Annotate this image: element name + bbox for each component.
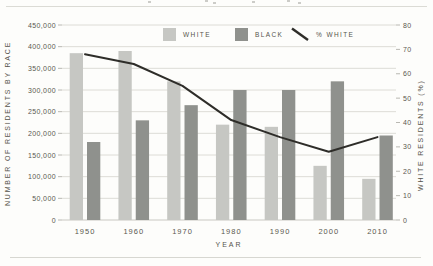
bar-black-1950: [87, 142, 100, 220]
right-tick-label: 40: [403, 119, 412, 126]
year-label: 1980: [221, 227, 242, 236]
bar-black-2010: [380, 136, 393, 221]
left-tick-label: 200,000: [28, 130, 56, 137]
year-label: 2000: [318, 227, 339, 236]
bar-black-1980: [233, 90, 246, 220]
legend-label-white: WHITE: [183, 31, 211, 38]
bar-white-2010: [362, 179, 375, 220]
right-tick-label: 10: [403, 192, 412, 199]
left-axis-title: NUMBER OF RESIDENTS BY RACE: [4, 36, 11, 211]
legend-swatch-white: [163, 28, 176, 41]
left-tick-label: 350,000: [28, 65, 56, 72]
legend-label-pct-white: % WHITE: [316, 31, 354, 38]
bar-black-1970: [185, 105, 198, 220]
year-label: 1960: [123, 227, 144, 236]
bar-black-1990: [282, 90, 295, 220]
right-tick-label: 20: [403, 168, 412, 175]
left-tick-label: 450,000: [28, 22, 56, 29]
right-tick-label: 50: [403, 95, 412, 102]
legend-swatch-black: [235, 28, 248, 41]
year-label: 1970: [172, 227, 193, 236]
right-tick-label: 60: [403, 70, 412, 77]
left-tick-label: 0: [52, 217, 56, 224]
right-tick-label: 0: [403, 217, 407, 224]
right-tick-label: 30: [403, 143, 412, 150]
year-label: 2010: [367, 227, 388, 236]
chart-plot: 050,000100,000150,000200,000250,000300,0…: [0, 0, 433, 266]
legend-label-black: BLACK: [255, 31, 283, 38]
bar-black-1960: [136, 120, 149, 220]
bar-white-1950: [70, 53, 83, 220]
bar-white-1960: [118, 51, 131, 220]
left-tick-label: 100,000: [28, 173, 56, 180]
right-tick-label: 80: [403, 22, 412, 29]
left-tick-label: 300,000: [28, 87, 56, 94]
right-axis-title: WHITE RESIDENTS (%): [417, 58, 424, 213]
bar-white-1980: [216, 125, 229, 220]
left-tick-label: 150,000: [28, 152, 56, 159]
x-axis-title: YEAR: [62, 241, 396, 248]
right-tick-label: 70: [403, 46, 412, 53]
left-tick-label: 400,000: [28, 43, 56, 50]
bottom-horizontal-rule: [10, 257, 421, 258]
bar-white-1970: [167, 81, 180, 220]
bar-white-2000: [313, 166, 326, 220]
year-label: 1990: [270, 227, 291, 236]
left-tick-label: 50,000: [32, 195, 56, 202]
left-tick-label: 250,000: [28, 108, 56, 115]
bar-white-1990: [265, 127, 278, 220]
legend-line-icon: [291, 27, 311, 42]
year-label: 1950: [75, 227, 96, 236]
